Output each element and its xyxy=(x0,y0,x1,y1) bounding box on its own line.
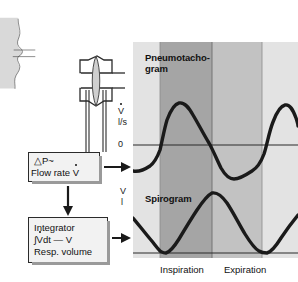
integrator-vdot-symbol: V xyxy=(37,234,43,246)
flow-box-line2-prefix: Flow rate xyxy=(31,167,73,178)
axis-flow-vdot: V xyxy=(118,106,124,116)
axis-flow-units: l/s xyxy=(118,117,127,127)
axis-volume-units: l xyxy=(121,197,123,207)
integrator-box-line2: ∫Vdt — V xyxy=(34,234,72,246)
pneumotachogram-label-line2: gram xyxy=(145,63,168,74)
flow-box-line2: Flow rate V xyxy=(31,167,79,179)
spirogram-label: Spirogram xyxy=(145,194,192,205)
phase-label-expiration: Expiration xyxy=(224,264,266,275)
pneumotachogram-label: Pneumotacho- gram xyxy=(145,53,210,74)
flow-box-vdot-symbol: V xyxy=(73,167,79,179)
chart-curves xyxy=(133,42,298,258)
axis-flow-symbol: V xyxy=(118,106,124,116)
axis-volume-symbol: V xyxy=(120,186,126,196)
axis-zero-tick: 0 xyxy=(118,139,123,149)
flow-box-line1: △P~ xyxy=(34,155,54,167)
integrator-box-line2-suffix: dt — V xyxy=(43,234,72,245)
phase-label-inspiration: Inspiration xyxy=(160,264,204,275)
respiratory-chart: Pneumotacho- gram Spirogram xyxy=(133,42,298,258)
apparatus-panel: △P~ Flow rate V Integrator ∫Vdt — V Resp… xyxy=(0,0,136,282)
integrator-box-line3: Resp. volume xyxy=(34,246,92,258)
pneumotachography-diagram: △P~ Flow rate V Integrator ∫Vdt — V Resp… xyxy=(0,0,298,282)
pneumotachogram-label-line1: Pneumotacho- xyxy=(145,52,210,63)
